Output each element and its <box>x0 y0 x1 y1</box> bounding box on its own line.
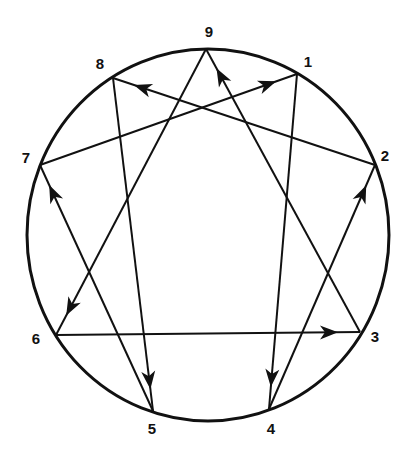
arrow-line-1-to-4 <box>269 74 297 409</box>
point-label-5: 5 <box>148 420 156 437</box>
point-label-6: 6 <box>32 330 40 347</box>
arrow-line-3-to-9 <box>206 49 360 332</box>
arrowhead-icon <box>132 78 153 97</box>
arrow-line-6-to-3 <box>56 332 360 335</box>
enneagram-diagram: 912345678 <box>0 0 411 458</box>
arrow-line-9-to-6 <box>56 49 206 335</box>
arrowhead-icon <box>353 182 373 204</box>
arrowhead-icon <box>210 65 231 88</box>
arrowhead-icon <box>43 182 63 204</box>
point-label-1: 1 <box>304 53 312 70</box>
point-label-2: 2 <box>381 147 389 164</box>
arrow-line-4-to-2 <box>269 165 375 409</box>
point-label-3: 3 <box>371 328 379 345</box>
arrowhead-icon <box>257 75 279 94</box>
point-labels: 912345678 <box>22 23 389 437</box>
arrow-lines <box>40 49 375 411</box>
point-label-9: 9 <box>205 23 213 40</box>
arrowhead-icon <box>60 296 81 318</box>
point-label-4: 4 <box>267 420 276 437</box>
point-label-7: 7 <box>22 149 30 166</box>
point-label-8: 8 <box>96 55 104 72</box>
arrow-line-5-to-7 <box>40 165 153 411</box>
